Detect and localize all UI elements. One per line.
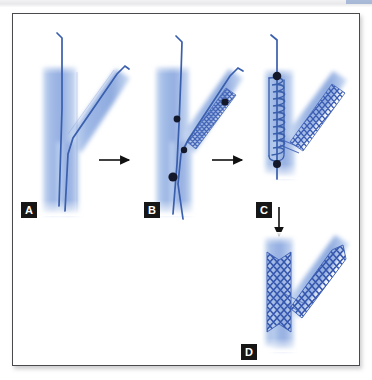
panel-label-d: D: [241, 344, 257, 360]
figure-canvas: A B C D: [13, 14, 359, 365]
marker-distal-c: [273, 160, 281, 168]
marker-distal-b: [168, 172, 177, 181]
marker-proximal-c: [273, 72, 282, 81]
panel-c-artwork: [261, 35, 347, 179]
marker-carina-b: [181, 147, 187, 153]
panel-b-artwork: [152, 36, 243, 219]
panel-label-a: A: [21, 202, 37, 218]
panel-label-b: B: [144, 202, 160, 218]
page-top-strip: [0, 0, 372, 7]
panel-a-artwork: [39, 33, 130, 216]
panel-label-c: C: [256, 202, 272, 218]
marker-side-distal-b: [221, 98, 228, 105]
page-top-accent: [346, 0, 372, 4]
deployed-stent-main-branch-d: [267, 252, 291, 332]
bifurcation-stenting-illustration: [13, 14, 361, 367]
deployed-stent-side-branch-d: [290, 245, 346, 318]
marker-proximal-b: [174, 116, 181, 123]
figure-frame: A B C D: [12, 13, 360, 366]
panel-d-artwork: [261, 232, 349, 352]
